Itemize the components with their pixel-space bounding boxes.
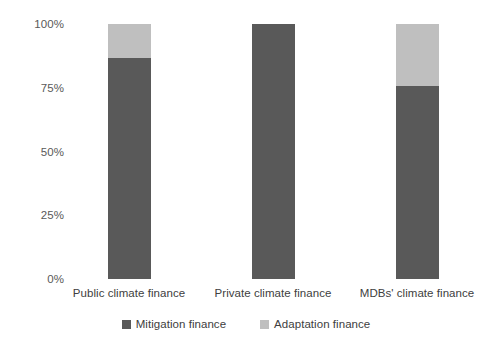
bar-segment-adaptation[interactable] bbox=[396, 24, 439, 86]
bar-segment-mitigation[interactable] bbox=[108, 58, 151, 279]
x-category-label-2: MDBs' climate finance bbox=[360, 287, 474, 299]
legend-item-adaptation-finance[interactable]: Adaptation finance bbox=[260, 318, 370, 330]
legend-swatch-icon bbox=[122, 320, 131, 329]
y-tick-label-100: 100% bbox=[34, 18, 64, 30]
legend: Mitigation finance Adaptation finance bbox=[0, 318, 492, 330]
stacked-bar-chart: 100% 75% 50% 25% 0% Public climate f bbox=[0, 0, 492, 347]
legend-swatch-icon bbox=[260, 320, 269, 329]
bar-stack bbox=[252, 24, 295, 279]
bar-segment-mitigation[interactable] bbox=[396, 86, 439, 279]
bar-group-mdbs-climate-finance bbox=[396, 24, 439, 279]
legend-item-mitigation-finance[interactable]: Mitigation finance bbox=[122, 318, 226, 330]
y-tick-label-25: 25% bbox=[41, 209, 64, 221]
legend-label: Adaptation finance bbox=[274, 318, 370, 330]
bar-group-public-climate-finance bbox=[108, 24, 151, 279]
bar-group-private-climate-finance bbox=[252, 24, 295, 279]
bar-segment-adaptation[interactable] bbox=[108, 24, 151, 58]
y-tick-label-75: 75% bbox=[41, 82, 64, 94]
y-tick-label-0: 0% bbox=[47, 273, 64, 285]
bar-stack bbox=[108, 24, 151, 279]
y-tick-label-50: 50% bbox=[41, 146, 64, 158]
x-category-label-1: Private climate finance bbox=[215, 287, 332, 299]
y-axis: 100% 75% 50% 25% 0% bbox=[0, 24, 64, 279]
legend-label: Mitigation finance bbox=[136, 318, 226, 330]
x-category-label-0: Public climate finance bbox=[73, 287, 185, 299]
bar-segment-mitigation[interactable] bbox=[252, 24, 295, 279]
plot-area bbox=[72, 24, 476, 279]
bar-stack bbox=[396, 24, 439, 279]
